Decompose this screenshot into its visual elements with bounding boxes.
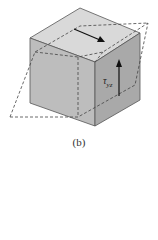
shear-stress-label: τyz [103, 75, 112, 89]
figure-caption: (b) [0, 136, 158, 148]
